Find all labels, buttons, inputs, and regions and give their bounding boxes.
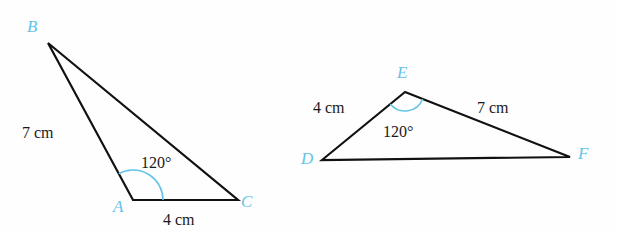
side-length-ac: 4 cm xyxy=(163,212,195,228)
vertex-label-a: A xyxy=(113,198,123,215)
triangles-canvas xyxy=(0,0,617,233)
vertex-label-f: F xyxy=(578,145,588,162)
vertex-label-c: C xyxy=(241,193,252,210)
vertex-label-b: B xyxy=(27,18,37,35)
triangle-abc-outline xyxy=(48,43,238,200)
vertex-label-e: E xyxy=(397,64,407,81)
side-length-ef: 7 cm xyxy=(477,100,509,116)
angle-value-a: 120° xyxy=(141,155,171,171)
angle-value-e: 120° xyxy=(383,124,413,140)
triangle-def-outline xyxy=(322,92,570,160)
side-length-de: 4 cm xyxy=(313,100,345,116)
side-length-ab: 7 cm xyxy=(22,125,54,141)
triangle-abc-shape xyxy=(48,43,238,200)
geometry-figure: B A C 7 cm 4 cm 120° E D F 4 cm 7 cm 120… xyxy=(0,0,617,233)
triangle-def-shape xyxy=(322,92,570,160)
vertex-label-d: D xyxy=(301,150,313,167)
